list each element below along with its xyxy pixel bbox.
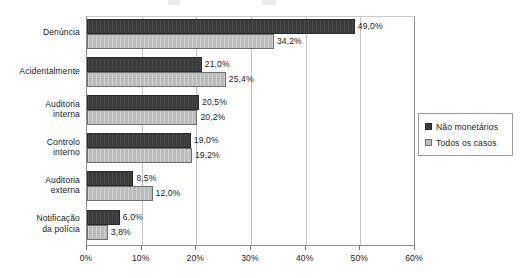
category-label-line: externa (0, 185, 80, 195)
legend-item-nao-monetarios[interactable]: Não monetários (425, 120, 507, 133)
gridline (196, 17, 197, 245)
legend-item-label: Todos os casos (436, 138, 497, 148)
bar-value-label: 21,0% (205, 57, 230, 72)
tick-mark (414, 246, 415, 250)
bar-value-label: 20,2% (200, 110, 225, 125)
category-label-line: Notificação (0, 213, 80, 223)
bar-value-label: 34,2% (277, 34, 302, 49)
gridline (306, 17, 307, 245)
bar-0-4[interactable] (87, 171, 133, 186)
bar-1-4[interactable] (87, 186, 153, 201)
light-square-icon (425, 139, 432, 146)
category-label-line: Acidentalmente (0, 66, 80, 76)
x-axis-ticks: 0%10%20%30%40%50%60% (86, 246, 416, 272)
tick-mark (250, 246, 251, 250)
legend-item-todos-os-casos[interactable]: Todos os casos (425, 136, 507, 149)
bar-value-label: 25,4% (229, 72, 254, 87)
bar-value-label: 3,8% (111, 225, 131, 240)
legend-item-label: Não monetários (436, 122, 498, 132)
category-label-line: Denúncia (0, 27, 80, 37)
bar-0-2[interactable] (87, 95, 199, 110)
x-tick-label: 20% (187, 253, 205, 264)
bar-1-1[interactable] (87, 72, 226, 87)
x-tick-label: 50% (351, 253, 369, 264)
category-axis-labels: DenúnciaAcidentalmenteAuditoriainternaCo… (0, 16, 80, 246)
bar-1-3[interactable] (87, 148, 192, 163)
gridline (251, 17, 252, 245)
category-label-0: Denúncia (0, 27, 80, 37)
category-label-line: Controlo (0, 137, 80, 147)
bar-value-label: 19,0% (194, 133, 219, 148)
category-label-line: interna (0, 109, 80, 119)
bar-value-label: 49,0% (358, 19, 383, 34)
x-tick-label: 40% (296, 253, 314, 264)
bar-0-1[interactable] (87, 57, 202, 72)
tick-mark (359, 246, 360, 250)
tick-mark (195, 246, 196, 250)
chart-legend: Não monetários Todos os casos (418, 113, 513, 156)
dark-square-icon (425, 123, 432, 130)
bar-value-label: 8,5% (136, 171, 156, 186)
bar-1-5[interactable] (87, 225, 108, 240)
bar-0-5[interactable] (87, 210, 120, 225)
category-label-line: Auditoria (0, 99, 80, 109)
bar-1-2[interactable] (87, 110, 197, 125)
category-label-4: Auditoriaexterna (0, 175, 80, 195)
x-tick-label: 30% (241, 253, 259, 264)
bar-0-3[interactable] (87, 133, 191, 148)
tick-mark (141, 246, 142, 250)
bar-value-label: 19,2% (195, 148, 220, 163)
cropped-title-remnant (150, 0, 350, 5)
bar-value-label: 12,0% (156, 186, 181, 201)
x-tick-label: 10% (132, 253, 150, 264)
category-label-2: Auditoriainterna (0, 99, 80, 119)
bar-value-label: 20,5% (202, 95, 227, 110)
x-tick-label: 0% (80, 253, 93, 264)
category-label-line: Auditoria (0, 175, 80, 185)
category-label-line: da polícia (0, 224, 80, 234)
category-label-5: Notificaçãoda polícia (0, 213, 80, 233)
bar-0-0[interactable] (87, 19, 355, 34)
tick-mark (86, 246, 87, 250)
category-label-3: Controlointerno (0, 137, 80, 157)
category-label-line: interno (0, 147, 80, 157)
tick-mark (305, 246, 306, 250)
x-tick-label: 60% (405, 253, 423, 264)
bar-1-0[interactable] (87, 34, 274, 49)
category-label-1: Acidentalmente (0, 66, 80, 76)
plot-area: 49,0%34,2%21,0%25,4%20,5%20,2%19,0%19,2%… (86, 16, 415, 246)
gridline (360, 17, 361, 245)
bar-chart: DenúnciaAcidentalmenteAuditoriainternaCo… (0, 0, 521, 278)
bar-value-label: 6,0% (123, 210, 143, 225)
